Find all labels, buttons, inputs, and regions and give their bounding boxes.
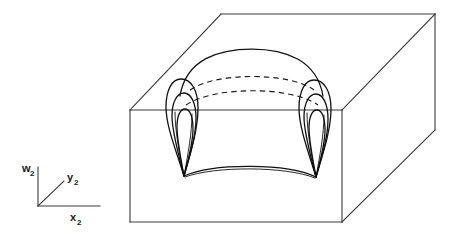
ridge-arc-top <box>180 49 323 96</box>
axis-label-x2-base: x <box>70 211 77 223</box>
axis-label-x2-sub: 2 <box>77 218 82 227</box>
right-cusp-loop-inner <box>309 110 325 177</box>
axis-label-y2-base: y <box>67 171 74 183</box>
box-edge-top-right <box>342 14 435 110</box>
axis-label-w2-sub: 2 <box>30 169 35 178</box>
axis-label-y2-sub: 2 <box>74 178 79 187</box>
hidden-arc-lower <box>186 91 318 105</box>
lower-fold-group <box>184 166 316 178</box>
hidden-arc-upper <box>190 77 314 91</box>
axis-y2-line <box>38 181 64 206</box>
surface-ridge-group <box>180 49 323 96</box>
bounding-box-group <box>130 14 435 222</box>
hidden-arcs-group <box>186 77 318 106</box>
right-cusp <box>299 80 331 177</box>
diagram-canvas: w 2 y 2 x 2 <box>0 0 461 242</box>
figure-root: w 2 y 2 x 2 <box>0 0 461 242</box>
left-cusp <box>166 79 198 176</box>
box-edge-right-bottom <box>342 130 435 222</box>
left-cusp-loop-inner <box>177 109 193 176</box>
axis-labels: w 2 y 2 x 2 <box>21 162 82 227</box>
